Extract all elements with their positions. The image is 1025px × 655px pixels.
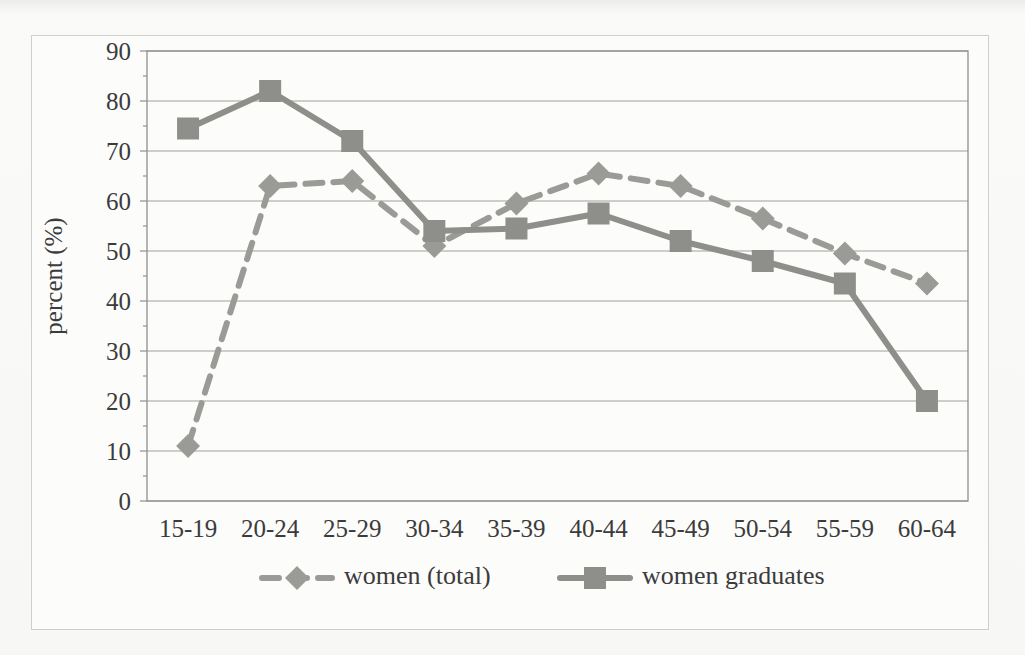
data-point-marker bbox=[504, 192, 528, 216]
data-point-marker bbox=[751, 207, 775, 231]
y-axis-tick-label: 20 bbox=[106, 388, 131, 415]
y-axis-tick-label: 30 bbox=[106, 338, 131, 365]
data-point-marker bbox=[669, 174, 693, 198]
y-axis-tick-labels-group: 0102030405060708090 bbox=[106, 38, 131, 515]
y-axis-tick-label: 10 bbox=[106, 438, 131, 465]
data-point-marker bbox=[176, 434, 200, 458]
x-axis-tick-label: 40-44 bbox=[569, 515, 628, 542]
data-point-marker bbox=[588, 203, 610, 225]
data-point-marker bbox=[670, 230, 692, 252]
series-line bbox=[188, 174, 927, 447]
legend-marker-swatch bbox=[584, 567, 606, 589]
x-axis-tick-label: 35-39 bbox=[487, 515, 545, 542]
data-point-marker bbox=[834, 273, 856, 295]
legend-label: women (total) bbox=[344, 561, 491, 590]
x-axis-tick-label: 55-59 bbox=[816, 515, 874, 542]
legend-item-1[interactable]: women (total) bbox=[262, 561, 491, 590]
y-axis-tick-label: 50 bbox=[106, 238, 131, 265]
y-axis-title: percent (%) bbox=[40, 217, 68, 334]
x-axis-tick-label: 20-24 bbox=[241, 515, 300, 542]
y-axis-ticks-group bbox=[140, 51, 147, 501]
data-point-marker bbox=[259, 80, 281, 102]
data-point-marker bbox=[505, 218, 527, 240]
legend-item-2[interactable]: women graduates bbox=[560, 561, 825, 590]
data-point-marker bbox=[915, 272, 939, 296]
chart-figure: 0102030405060708090 15-1920-2425-2930-34… bbox=[0, 0, 1025, 655]
data-point-marker bbox=[752, 250, 774, 272]
x-axis-tick-label: 45-49 bbox=[651, 515, 709, 542]
x-axis-tick-label: 30-34 bbox=[405, 515, 464, 542]
y-axis-tick-label: 0 bbox=[119, 488, 132, 515]
x-axis-tick-label: 60-64 bbox=[898, 515, 957, 542]
y-axis-tick-label: 80 bbox=[106, 88, 131, 115]
legend-label: women graduates bbox=[642, 561, 825, 590]
line-chart-svg: 0102030405060708090 15-1920-2425-2930-34… bbox=[0, 0, 1025, 655]
data-point-marker bbox=[833, 242, 857, 266]
data-point-marker bbox=[587, 162, 611, 186]
x-axis-tick-label: 15-19 bbox=[159, 515, 217, 542]
y-axis-tick-label: 60 bbox=[106, 188, 131, 215]
x-axis-tick-labels-group: 15-1920-2425-2930-3435-3940-4445-4950-54… bbox=[159, 515, 957, 542]
y-axis-tick-label: 90 bbox=[106, 38, 131, 65]
chart-legend: women (total)women graduates bbox=[262, 561, 825, 590]
legend-marker-swatch bbox=[285, 566, 309, 590]
x-axis-tick-label: 25-29 bbox=[323, 515, 381, 542]
data-point-marker bbox=[916, 390, 938, 412]
series-1 bbox=[176, 162, 939, 459]
y-axis-tick-label: 70 bbox=[106, 138, 131, 165]
series-line bbox=[188, 91, 927, 401]
y-axis-tick-label: 40 bbox=[106, 288, 131, 315]
data-point-marker bbox=[423, 220, 445, 242]
data-point-marker bbox=[177, 118, 199, 140]
x-axis-tick-label: 50-54 bbox=[734, 515, 793, 542]
data-point-marker bbox=[258, 174, 282, 198]
data-point-marker bbox=[341, 130, 363, 152]
